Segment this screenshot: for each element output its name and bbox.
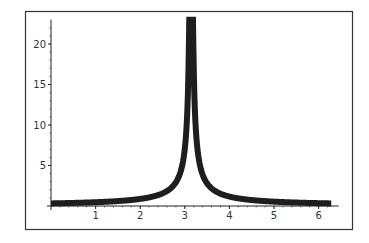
x-tick-label: 1 [92, 210, 98, 221]
y-tick-label: 10 [33, 120, 46, 131]
x-tick-label: 2 [137, 210, 143, 221]
x-tick-label: 5 [271, 210, 277, 221]
y-tick-label: 15 [33, 79, 46, 90]
y-tick-label: 20 [33, 39, 46, 50]
plot-area: 1234565101520 [0, 0, 369, 243]
y-tick-label: 5 [40, 160, 46, 171]
ticks: 1234565101520 [33, 28, 327, 221]
x-tick-label: 4 [226, 210, 232, 221]
x-tick-label: 6 [315, 210, 321, 221]
x-tick-label: 3 [182, 210, 188, 221]
data-curve [51, 20, 331, 204]
